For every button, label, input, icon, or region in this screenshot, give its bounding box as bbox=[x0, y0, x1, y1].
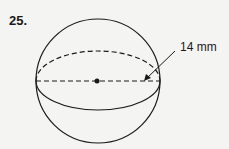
equator-front bbox=[36, 81, 160, 110]
measurement-label: 14 mm bbox=[180, 40, 217, 54]
sphere-diagram bbox=[0, 0, 229, 149]
equator-back-dashed bbox=[36, 51, 160, 81]
center-point bbox=[95, 79, 100, 84]
